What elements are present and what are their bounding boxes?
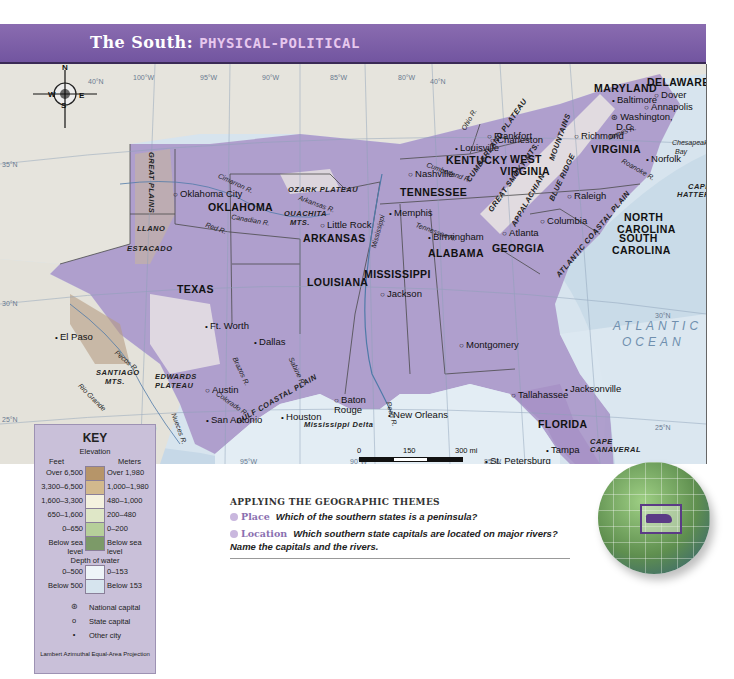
city-label[interactable]: • Memphis (389, 208, 433, 218)
legend-swatch (85, 579, 105, 594)
key-feet-label: Feet (49, 457, 64, 466)
map-title-subtitle: PHYSICAL-POLITICAL (199, 35, 360, 51)
state-label: OKLAHOMA (208, 202, 273, 213)
physical-feature-label: EDWARDS (155, 373, 197, 381)
city-label[interactable]: ○ Dover (654, 90, 686, 100)
state-label: MISSISSIPPI (364, 269, 431, 280)
key-projection: Lambert Azimuthal Equal-Area Projection (35, 651, 155, 657)
city-label[interactable]: • Dallas (254, 337, 285, 347)
city-label[interactable]: ○ Richmond (574, 131, 624, 141)
graticule-label: 95°W (240, 458, 257, 464)
graticule-label: 40°N (88, 78, 104, 85)
legend-row: Below 500Below 153 (35, 579, 155, 593)
bullet-icon (230, 513, 238, 521)
city-label[interactable]: • Jacksonville (565, 384, 621, 394)
locator-globe (598, 462, 710, 574)
map-canvas[interactable]: N W E S 40°N100°W95°W90°W85°W80°W40°N35°… (0, 64, 707, 464)
city-label[interactable]: • Ft. Worth (205, 321, 249, 331)
physical-feature-label: ESTACADO (127, 245, 173, 253)
state-capital-icon: ○ (459, 341, 466, 350)
water-body-label: ATLANTIC (613, 320, 702, 332)
city-label[interactable]: • Tampa (546, 445, 580, 455)
graticule-label: 100°W (133, 74, 154, 81)
key-meters-label: Meters (118, 457, 141, 466)
city-label[interactable]: ○ Oklahoma City (173, 189, 242, 199)
state-label: SOUTH (619, 233, 658, 244)
symbol-row: oState capital (35, 615, 155, 629)
graticule-label: 25°N (655, 424, 671, 431)
city-label[interactable]: ○ Jackson (380, 289, 422, 299)
state-capital-icon: ○ (408, 170, 415, 179)
compass-e-label: E (79, 92, 84, 100)
city-label[interactable]: • El Paso (55, 332, 93, 342)
map-symbol-icon: • (69, 630, 79, 639)
city-label[interactable]: ○ Montgomery (459, 340, 519, 350)
state-label: GEORGIA (492, 243, 544, 254)
map-title-bar: The South: PHYSICAL-POLITICAL (0, 24, 706, 64)
map-symbol-icon: o (69, 616, 79, 625)
water-body-label: Chesapeake (672, 139, 707, 146)
graticule-label: 80°W (398, 74, 415, 81)
depth-legend: 0–5000–153Below 500Below 153 (35, 565, 155, 593)
map-symbol-icon: ⊛ (69, 602, 79, 611)
physical-feature-label: OUACHITA (284, 210, 327, 218)
graticule-label: 25°N (2, 416, 18, 423)
legend-swatch (85, 466, 105, 481)
state-capital-icon: ○ (320, 221, 327, 230)
state-label: LOUISIANA (307, 277, 368, 288)
graticule-label: 30°N (2, 300, 18, 307)
city-label[interactable]: • San Antonio (206, 415, 262, 425)
city-label[interactable]: • Louisville (455, 143, 499, 153)
state-capital-icon: ○ (567, 192, 574, 201)
physical-feature-label: PLATEAU (155, 382, 193, 390)
legend-row: 3,300–6,5001,000–1,980 (35, 480, 155, 494)
map-key: KEY Elevation FeetMeters Over 6,500Over … (34, 424, 156, 674)
graticule-label: 90°W (262, 74, 279, 81)
city-label[interactable]: ○ Atlanta (502, 228, 539, 238)
legend-row: 650–1,600200–480 (35, 508, 155, 522)
legend-row: 0–6500–200 (35, 522, 155, 536)
physical-feature-label: MTS. (290, 219, 310, 227)
city-label[interactable]: Rouge (334, 405, 362, 415)
physical-feature-label: LLANO (137, 225, 165, 233)
state-label: TEXAS (177, 284, 214, 295)
city-label[interactable]: ○ Little Rock (320, 220, 371, 230)
city-label[interactable]: ○ Austin (205, 385, 238, 395)
state-label: VIRGINIA (591, 144, 641, 155)
state-label: DELAWARE (647, 77, 707, 88)
graticule-label: 35°N (2, 161, 18, 168)
symbol-legend: ⊛National capitaloState capital•Other ci… (35, 601, 155, 643)
physical-feature-label: HATTERAS (677, 191, 707, 199)
compass-n-label: N (62, 64, 68, 72)
state-label: TENNESSEE (400, 187, 467, 198)
locator-region (646, 514, 672, 523)
state-capital-icon: ○ (380, 290, 387, 299)
physical-feature-label: MTS. (105, 378, 125, 386)
city-label[interactable]: • Norfolk (646, 154, 681, 164)
scale-bar-graphic (359, 457, 463, 462)
physical-feature-label: OZARK PLATEAU (288, 186, 358, 194)
city-label[interactable]: ○ Raleigh (567, 191, 606, 201)
legend-swatch (85, 565, 105, 580)
city-label[interactable]: ○ Frankfort (487, 131, 532, 141)
city-label[interactable]: • St. Petersburg (485, 456, 551, 464)
state-capital-icon: ○ (173, 190, 180, 199)
city-label[interactable]: • New Orleans (388, 410, 448, 420)
city-label[interactable]: • Houston (281, 412, 321, 422)
state-capital-icon: ○ (540, 217, 547, 226)
city-label[interactable]: ○ Tallahassee (511, 390, 568, 400)
state-capital-icon: ○ (511, 391, 518, 400)
legend-row: 0–5000–153 (35, 565, 155, 579)
state-label: NORTH (624, 212, 663, 223)
state-label: ALABAMA (428, 248, 484, 259)
city-label[interactable]: ○ Nashville (408, 169, 454, 179)
state-capital-icon: ○ (654, 91, 661, 100)
graticule-label: 40°N (430, 78, 446, 85)
key-depth-label: Depth of water (35, 556, 155, 565)
city-label[interactable]: ○ Columbia (540, 216, 587, 226)
city-label[interactable]: • Birmingham (428, 232, 484, 242)
compass-s-label: S (61, 102, 66, 110)
state-label: FLORIDA (538, 419, 587, 430)
legend-swatch (85, 522, 105, 537)
theme-question-place: PlaceWhich of the southern states is a p… (230, 511, 580, 524)
